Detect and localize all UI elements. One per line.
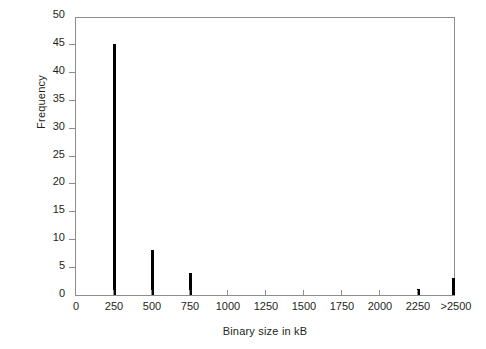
histogram-figure: 0250500750100012501500175020002250>2500 … xyxy=(0,0,486,349)
x-tick-mark xyxy=(303,290,304,295)
y-tick-label: 35 xyxy=(53,93,65,104)
plot-area: 0250500750100012501500175020002250>2500 xyxy=(75,17,455,296)
bar xyxy=(113,44,116,295)
y-tick-mark xyxy=(69,183,75,184)
y-tick-mark xyxy=(69,267,75,268)
x-tick-mark xyxy=(341,290,342,295)
y-tick-label: 0 xyxy=(59,288,65,299)
y-tick-label: 5 xyxy=(59,260,65,271)
x-tick-mark xyxy=(379,290,380,295)
y-axis-title: Frequency xyxy=(35,37,47,167)
x-tick-mark xyxy=(227,290,228,295)
x-axis-title: Binary size in kB xyxy=(75,325,455,337)
y-tick-label: 30 xyxy=(53,121,65,132)
bar xyxy=(151,250,154,295)
y-tick-label: 10 xyxy=(53,232,65,243)
y-tick-label: 15 xyxy=(53,204,65,215)
y-tick-mark xyxy=(69,156,75,157)
y-tick-mark xyxy=(69,128,75,129)
x-tick-mark xyxy=(151,290,152,295)
y-tick-label: 50 xyxy=(53,9,65,20)
bar xyxy=(452,278,455,295)
x-tick-mark xyxy=(113,290,114,295)
x-tick-mark xyxy=(189,290,190,295)
y-tick-mark xyxy=(69,72,75,73)
x-tick-mark xyxy=(417,290,418,295)
y-tick-mark xyxy=(69,239,75,240)
y-tick-mark xyxy=(69,211,75,212)
y-tick-mark xyxy=(69,100,75,101)
x-tick-mark xyxy=(265,290,266,295)
y-tick-mark xyxy=(69,44,75,45)
y-tick-label: 25 xyxy=(53,149,65,160)
y-tick-label: 20 xyxy=(53,176,65,187)
y-tick-label: 40 xyxy=(53,65,65,76)
x-tick-label: >2500 xyxy=(416,301,486,312)
y-tick-label: 45 xyxy=(53,37,65,48)
